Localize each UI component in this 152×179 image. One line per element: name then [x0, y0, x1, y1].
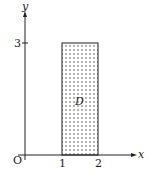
y-axis-label: y: [21, 0, 29, 13]
x-tick-label-1: 1: [59, 157, 66, 170]
x-axis-label: x: [138, 148, 145, 161]
x-tick-label-2: 2: [95, 157, 102, 170]
diagram-canvas: y x O 3 1 2 D: [0, 0, 152, 179]
region-label: D: [74, 95, 84, 108]
y-tick-label-3: 3: [14, 37, 21, 50]
origin-label: O: [13, 154, 22, 167]
x-axis-arrow-icon: [131, 153, 137, 157]
